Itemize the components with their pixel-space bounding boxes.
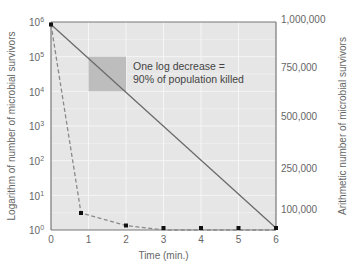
svg-text:1: 1 bbox=[86, 234, 92, 245]
svg-text:4: 4 bbox=[198, 234, 204, 245]
svg-text:100: 100 bbox=[29, 224, 44, 236]
svg-text:106: 106 bbox=[29, 16, 44, 28]
svg-text:750,000: 750,000 bbox=[281, 62, 318, 73]
svg-text:5: 5 bbox=[236, 234, 242, 245]
svg-text:1,000,000: 1,000,000 bbox=[281, 14, 326, 25]
svg-text:2: 2 bbox=[123, 234, 129, 245]
x-ticks: 0 1 2 3 4 5 6 bbox=[48, 234, 279, 245]
one-log-decrease-region bbox=[89, 57, 127, 92]
svg-text:100,000: 100,000 bbox=[281, 204, 318, 215]
svg-text:250,000: 250,000 bbox=[281, 163, 318, 174]
y-left-axis-title: Logarithm of number of microbial survivo… bbox=[6, 32, 17, 221]
svg-text:500,000: 500,000 bbox=[281, 111, 318, 122]
annotation-line-2: 90% of population killed bbox=[133, 73, 244, 85]
svg-text:0: 0 bbox=[48, 234, 54, 245]
y-left-ticks: 106 105 104 103 102 101 100 bbox=[29, 16, 44, 236]
y-right-axis-title: Arithmetic number of microbial survivors bbox=[337, 37, 348, 215]
svg-text:104: 104 bbox=[29, 86, 44, 98]
annotation-line-1: One log decrease = bbox=[133, 60, 225, 72]
svg-text:105: 105 bbox=[29, 51, 44, 63]
y-right-ticks: 1,000,000 750,000 500,000 250,000 100,00… bbox=[281, 14, 326, 215]
svg-text:101: 101 bbox=[29, 190, 44, 202]
survival-curve-chart: 106 105 104 103 102 101 100 0 1 2 3 4 5 … bbox=[0, 0, 356, 267]
svg-text:6: 6 bbox=[273, 234, 279, 245]
x-axis-title: Time (min.) bbox=[138, 250, 188, 261]
svg-text:3: 3 bbox=[161, 234, 167, 245]
svg-text:102: 102 bbox=[29, 155, 44, 167]
svg-text:103: 103 bbox=[29, 120, 44, 132]
